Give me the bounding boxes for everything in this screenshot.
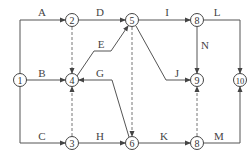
node-8-bottom: 8 [191,137,204,150]
label-G: G [96,67,104,79]
node-3: 3 [66,137,79,150]
svg-text:5: 5 [130,15,135,26]
network-diagram: A B C D E G H I J K L M N 1 2 3 4 5 6 8 … [0,0,252,159]
label-H: H [96,130,104,142]
label-B: B [38,67,45,79]
node-9: 9 [191,74,204,87]
activity-J [136,26,190,80]
node-1: 1 [14,74,27,87]
svg-text:6: 6 [130,138,135,149]
svg-text:1: 1 [18,75,23,86]
svg-text:9: 9 [195,75,200,86]
svg-text:2: 2 [70,15,75,26]
node-10: 10 [234,74,247,87]
node-8-top: 8 [191,14,204,27]
label-M: M [214,130,224,142]
activity-A [20,20,65,74]
label-A: A [38,6,46,18]
node-2: 2 [66,14,79,27]
node-6: 6 [126,137,139,150]
label-L: L [214,6,221,18]
label-N: N [201,39,209,51]
svg-text:4: 4 [70,75,75,86]
svg-text:8: 8 [195,138,200,149]
label-E: E [98,38,105,50]
node-5: 5 [126,14,139,27]
svg-text:10: 10 [236,76,245,86]
svg-text:8: 8 [195,15,200,26]
label-D: D [96,6,104,18]
label-C: C [38,130,45,142]
label-K: K [160,130,168,142]
activity-L [204,20,240,73]
activity-G [79,80,129,137]
label-J: J [175,67,180,79]
label-I: I [165,6,169,18]
svg-text:3: 3 [70,138,75,149]
node-4: 4 [66,74,79,87]
